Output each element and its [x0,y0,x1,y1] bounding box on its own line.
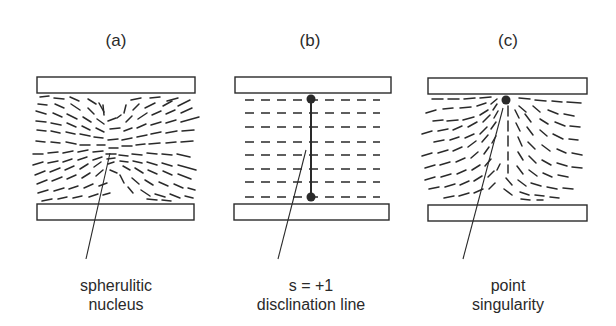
panel-b-label: (b) [300,31,321,50]
caption-b-line2: disclination line [257,296,366,313]
top-plate-c [428,78,587,94]
caption-c-line1: point [491,277,526,294]
caption-c-line2: singularity [472,296,544,313]
panel-c-label: (c) [498,31,518,50]
director-field-a [33,96,199,201]
bottom-plate-a [37,204,194,220]
bottom-plate-c [428,205,587,221]
liquid-crystal-defects-figure: .plate { fill: #ffffff; stroke: #2a2a2a;… [0,0,616,326]
disclination-bottom-point [307,193,316,202]
caption-a-line2: nucleus [88,296,143,313]
panel-a-label: (a) [106,31,127,50]
top-plate-b [235,77,391,93]
panel-a: (a) [33,31,199,313]
caption-a-line1: spherulitic [80,277,152,294]
bottom-plate-b [234,204,389,220]
disclination-top-point [307,95,316,104]
caption-b-line1: s = +1 [289,277,334,294]
director-field-b [245,100,380,197]
top-plate-a [37,77,195,93]
panel-c: (c) [422,31,587,313]
panel-b: (b) s = +1 disclination line [234,31,391,313]
point-singularity-dot [502,96,511,105]
